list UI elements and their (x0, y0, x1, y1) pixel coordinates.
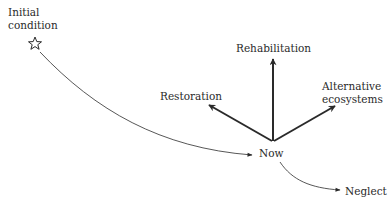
alternative-label-line2: ecosystems (322, 93, 383, 106)
trajectory-arrow (40, 52, 252, 155)
restoration-arrow (209, 105, 272, 141)
restoration-label: Restoration (160, 90, 222, 103)
alternative-label-line1: Alternative (322, 80, 383, 93)
initial-label-line2: condition (8, 19, 58, 32)
rehabilitation-label: Rehabilitation (236, 42, 311, 55)
initial-condition-label: Initial condition (8, 6, 58, 31)
now-label: Now (259, 147, 284, 160)
neglect-label: Neglect (345, 185, 387, 198)
neglect-arrow (280, 162, 340, 190)
alternative-ecosystems-label: Alternative ecosystems (322, 80, 383, 105)
initial-label-line1: Initial (8, 6, 58, 19)
alternative-ecosystems-arrow (274, 106, 335, 141)
star-icon (29, 37, 42, 49)
